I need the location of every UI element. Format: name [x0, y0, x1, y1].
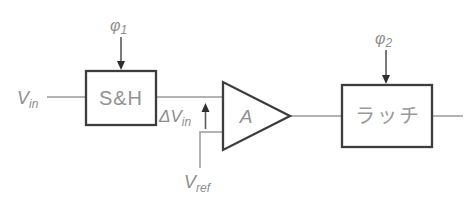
delta-vin-label-sub: in: [182, 115, 192, 129]
vin-label: Vin: [17, 88, 39, 111]
latch-label: ラッチ: [355, 105, 421, 127]
phi2-clock-arrow: [382, 50, 390, 84]
phi2-label: φ2: [375, 30, 392, 50]
phi2-label-sub: 2: [384, 36, 392, 50]
vref-label-sub: ref: [196, 181, 212, 195]
delta-vin-up-arrow: [202, 103, 210, 129]
phi1-arrowhead-icon: [117, 61, 125, 70]
delta-vin-label-base: ΔV: [158, 107, 183, 126]
vref-wire: [200, 132, 223, 168]
phi2-arrowhead-icon: [382, 75, 390, 84]
phi1-label: φ1: [110, 17, 127, 37]
phi1-label-base: φ: [110, 17, 120, 34]
phi1-clock-arrow: [117, 37, 125, 70]
sample-hold-label: S&H: [99, 87, 143, 109]
vin-label-sub: in: [29, 97, 39, 111]
diagram-canvas: Vin φ1 S&H ΔVin Vref A φ2 ラッチ: [0, 0, 476, 204]
amplifier-triangle: [223, 82, 290, 150]
delta-vin-label: ΔVin: [158, 107, 191, 129]
phi2-label-base: φ: [375, 30, 385, 47]
vref-label: Vref: [184, 172, 212, 195]
delta-vin-arrowhead-icon: [202, 103, 210, 112]
circuit-diagram: Vin φ1 S&H ΔVin Vref A φ2 ラッチ: [0, 0, 476, 204]
phi1-label-sub: 1: [120, 23, 127, 37]
amplifier-label: A: [239, 106, 253, 127]
